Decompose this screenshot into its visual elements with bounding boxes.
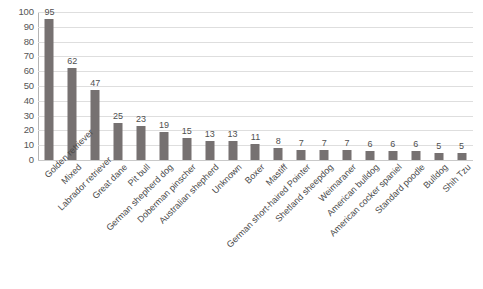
y-axis-tick-label: 20 xyxy=(0,126,34,136)
bar-group: 13 xyxy=(221,12,244,160)
bar xyxy=(320,150,329,160)
bar xyxy=(45,19,54,160)
bar xyxy=(434,153,443,160)
bar-value-label: 11 xyxy=(251,133,260,142)
x-axis-tick-label: Golden retriever xyxy=(43,162,61,180)
bar xyxy=(411,151,420,160)
bar-chart: 1009080706050403020100 95624725231915131… xyxy=(0,0,483,289)
bar-group: 13 xyxy=(198,12,221,160)
y-axis-tick-label: 80 xyxy=(0,37,34,47)
bar xyxy=(182,138,191,160)
bar-group: 6 xyxy=(359,12,382,160)
bar-value-label: 5 xyxy=(436,142,441,151)
bar xyxy=(251,144,260,160)
bar-value-label: 62 xyxy=(67,57,77,66)
y-axis-tick-label: 40 xyxy=(0,96,34,106)
bar xyxy=(159,132,168,160)
bar-group: 7 xyxy=(336,12,359,160)
bar xyxy=(343,150,352,160)
bar-value-label: 7 xyxy=(322,139,327,148)
bar-value-label: 8 xyxy=(276,137,281,146)
bar xyxy=(388,151,397,160)
y-axis-tick-label: 70 xyxy=(0,52,34,62)
y-axis-tick-label: 0 xyxy=(0,155,34,165)
bar xyxy=(365,151,374,160)
bar xyxy=(274,148,283,160)
bar xyxy=(457,153,466,160)
bar-group: 19 xyxy=(152,12,175,160)
bar-value-label: 13 xyxy=(228,130,238,139)
bar-group: 5 xyxy=(450,12,473,160)
bar-group: 5 xyxy=(427,12,450,160)
bar-group: 7 xyxy=(290,12,313,160)
bar-group: 11 xyxy=(244,12,267,160)
y-axis-tick-label: 90 xyxy=(0,22,34,32)
bar-value-label: 23 xyxy=(136,115,146,124)
bar xyxy=(205,141,214,160)
y-axis-tick-label: 100 xyxy=(0,7,34,17)
bar-group: 6 xyxy=(381,12,404,160)
bar xyxy=(228,141,237,160)
bar-group: 6 xyxy=(404,12,427,160)
x-axis-tick-labels: Golden retrieverMixedLabrador retrieverG… xyxy=(38,162,473,282)
bar-group: 25 xyxy=(107,12,130,160)
bar-value-label: 6 xyxy=(413,140,418,149)
y-axis-tick-label: 50 xyxy=(0,81,34,91)
bar xyxy=(297,150,306,160)
bar-group: 8 xyxy=(267,12,290,160)
y-axis-tick-label: 60 xyxy=(0,66,34,76)
plot-area: 95624725231915131311877766655 xyxy=(38,12,473,160)
bar-value-label: 95 xyxy=(44,8,54,17)
bar xyxy=(91,90,100,160)
y-axis-tick-label: 10 xyxy=(0,140,34,150)
bar-value-label: 13 xyxy=(205,130,215,139)
x-axis-tick-label: German short-haired Pointer xyxy=(116,162,312,289)
bar xyxy=(114,123,123,160)
bars: 95624725231915131311877766655 xyxy=(38,12,473,160)
bar-group: 15 xyxy=(175,12,198,160)
bar-value-label: 7 xyxy=(345,139,350,148)
bar-group: 7 xyxy=(313,12,336,160)
y-axis-tick-label: 30 xyxy=(0,111,34,121)
bar-value-label: 7 xyxy=(299,139,304,148)
bar-value-label: 47 xyxy=(90,79,100,88)
bar-value-label: 6 xyxy=(390,140,395,149)
bar-value-label: 6 xyxy=(367,140,372,149)
bar-group: 95 xyxy=(38,12,61,160)
bar xyxy=(137,126,146,160)
bar-value-label: 19 xyxy=(159,121,169,130)
bar-group: 23 xyxy=(130,12,153,160)
bar-value-label: 25 xyxy=(113,112,123,121)
bar-value-label: 15 xyxy=(182,127,192,136)
y-axis-tick-labels: 1009080706050403020100 xyxy=(0,12,34,160)
bar-value-label: 5 xyxy=(459,142,464,151)
